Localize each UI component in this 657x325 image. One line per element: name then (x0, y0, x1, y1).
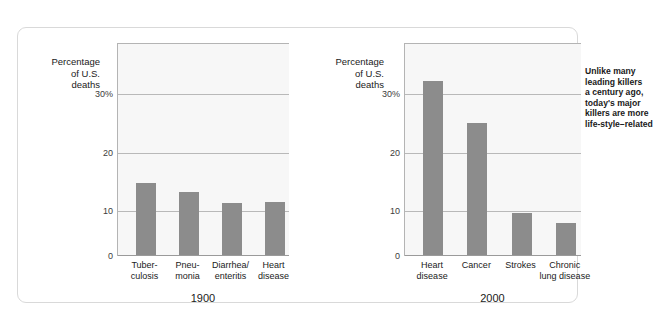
chart-annotation: Unlike many leading killers a century ag… (585, 66, 657, 130)
ytick-0: 0 (370, 251, 400, 261)
y-axis-title: Percentage of U.S. deaths (24, 56, 100, 91)
bars-layer-2000 (405, 44, 581, 256)
chart-1900: Percentage of U.S. deaths 30% 20 10 0 Tu… (18, 28, 299, 302)
bar-heart-disease (423, 81, 443, 255)
bar-pneumonia (179, 192, 199, 255)
y-axis-title: Percentage of U.S. deaths (308, 56, 384, 91)
bar-tuberculosis (136, 183, 156, 255)
ytick-30: 30% (370, 89, 400, 99)
bar-heart-disease (265, 202, 285, 255)
figure-panel: Percentage of U.S. deaths 30% 20 10 0 Tu… (17, 27, 578, 303)
ytick-20: 20 (83, 148, 113, 158)
ytick-0: 0 (83, 251, 113, 261)
bars-layer-1900 (118, 44, 289, 256)
bar-strokes (512, 213, 532, 255)
plot-area-2000: 30% 20 10 0 Unlike many leading killers … (404, 43, 581, 256)
bar-cancer (467, 123, 487, 255)
ytick-30: 30% (83, 89, 113, 99)
ytick-20: 20 (370, 148, 400, 158)
plot-area-1900: 30% 20 10 0 (117, 43, 289, 256)
panel-label-2000: 2000 (404, 292, 581, 304)
xtick-label-chronic-lung-disease: Chronic lung disease (533, 260, 597, 282)
ytick-10: 10 (370, 206, 400, 216)
ytick-10: 10 (83, 206, 113, 216)
panel-label-1900: 1900 (117, 292, 289, 304)
bar-diarrhea-enteritis (222, 203, 242, 255)
chart-2000: Percentage of U.S. deaths 30% 20 10 0 Un… (299, 28, 579, 302)
bar-chronic-lung-disease (556, 223, 576, 255)
xtick-label-heart-disease: Heart disease (242, 260, 306, 282)
